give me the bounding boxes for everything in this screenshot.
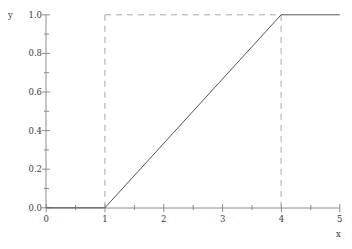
chart-figure: y 1.0 0.8 0.6 0.4 0.2 0.0 0 1 2 3 4 5 x: [0, 0, 352, 249]
y-tick-label-0.8: 0.8: [16, 49, 42, 58]
y-tick-label-1.0: 1.0: [16, 11, 42, 20]
x-axis-label: x: [336, 230, 341, 239]
x-tick-label-0: 0: [43, 215, 48, 224]
data-line-cdf: [46, 15, 340, 208]
x-tick-label-3: 3: [220, 215, 225, 224]
x-tick-label-4: 4: [279, 215, 284, 224]
x-tick-label-2: 2: [161, 215, 166, 224]
y-tick-label-0.4: 0.4: [16, 126, 42, 135]
y-tick-label-0.0: 0.0: [16, 204, 42, 213]
y-tick-label-0.6: 0.6: [16, 88, 42, 97]
y-axis-label: y: [8, 11, 13, 20]
x-tick-label-1: 1: [102, 215, 107, 224]
plot-canvas: [0, 0, 352, 249]
x-tick-label-5: 5: [337, 215, 342, 224]
y-tick-label-0.2: 0.2: [16, 165, 42, 174]
